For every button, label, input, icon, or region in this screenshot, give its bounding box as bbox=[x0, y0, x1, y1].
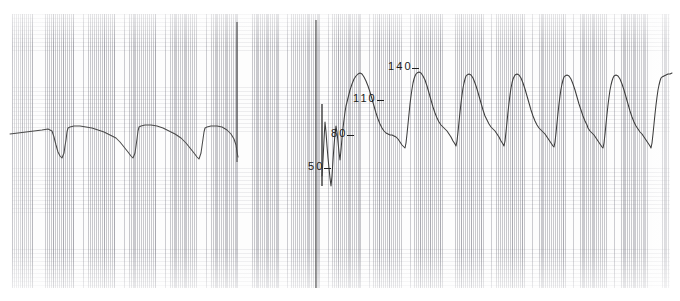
scale-tick-80 bbox=[347, 135, 354, 136]
scale-tick-140 bbox=[412, 68, 419, 69]
scale-label-140: 140 bbox=[388, 60, 413, 72]
scale-label-80: 80 bbox=[331, 127, 347, 139]
scale-label-110: 110 bbox=[353, 92, 377, 104]
scale-tick-110 bbox=[377, 100, 384, 101]
marker-lines-group bbox=[237, 20, 322, 288]
scale-tick-50 bbox=[324, 168, 331, 169]
arterial-pressure-trace bbox=[322, 72, 672, 186]
waveform-trace-layer bbox=[0, 0, 680, 301]
scale-label-50: 50 bbox=[308, 160, 324, 172]
arterial-pressure-strip-chart: 1401108050 bbox=[0, 0, 680, 301]
damped-arterial-trace bbox=[10, 125, 238, 159]
